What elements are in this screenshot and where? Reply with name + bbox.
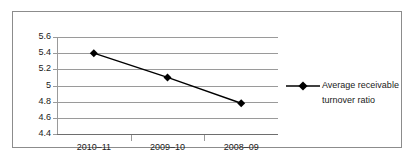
x-axis-tick [204, 135, 205, 141]
legend-item-label: Average receivable turnover ratio [322, 78, 411, 108]
data-point-marker [90, 49, 98, 57]
y-axis-tick-label: 4.4 [25, 129, 51, 138]
chart-frame: 4.44.64.855.25.45.6 2010–112009–102008–0… [12, 11, 402, 148]
chart-figure: 4.44.64.855.25.45.6 2010–112009–102008–0… [0, 0, 411, 161]
series-average-receivable-turnover-ratio [57, 37, 278, 135]
y-axis-tick-label: 4.6 [25, 113, 51, 122]
x-axis-tick-label: 2010–11 [57, 142, 131, 152]
y-axis-tick-label: 5.4 [25, 48, 51, 57]
y-axis-tick-label: 5 [25, 81, 51, 90]
x-axis-tick [131, 135, 132, 141]
x-axis-tick-label: 2008–09 [204, 142, 278, 152]
y-axis-tick-label: 5.6 [25, 32, 51, 41]
data-point-marker [164, 73, 172, 81]
y-axis-tick-label: 5.2 [25, 64, 51, 73]
data-point-marker [237, 99, 245, 107]
x-axis-tick-label: 2009–10 [131, 142, 205, 152]
y-axis-tick-label: 4.8 [25, 97, 51, 106]
legend-line-diamond-icon [286, 80, 320, 92]
